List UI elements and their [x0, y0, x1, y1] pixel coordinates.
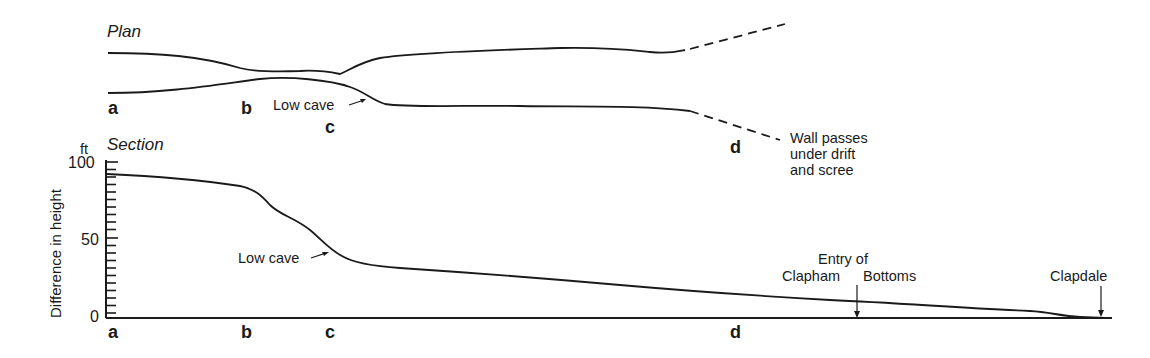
section-point-c: c [325, 322, 335, 342]
section-point-b: b [241, 322, 252, 342]
clapdale-arrowhead [1098, 310, 1104, 317]
section-profile-line [107, 174, 1105, 318]
plan-point-a: a [108, 98, 119, 118]
plan-lower-wall-dashed [690, 111, 780, 140]
entry-label-bottoms: Bottoms [863, 268, 916, 284]
ytick-50: 50 [81, 231, 99, 248]
ytick-0: 0 [90, 308, 99, 325]
section-point-a: a [108, 322, 119, 342]
wall-note-line1: Wall passes [790, 130, 868, 146]
section-low-cave-arrowhead [322, 252, 329, 256]
entry-arrowhead [854, 311, 860, 318]
plan-upper-wall-dashed [690, 24, 785, 49]
plan-point-b: b [241, 98, 252, 118]
plan-lower-wall [108, 78, 690, 111]
ytick-100: 100 [68, 154, 95, 171]
wall-note-line2: under drift [790, 146, 855, 162]
plan-upper-wall [108, 48, 685, 74]
y-axis-ticks [106, 162, 118, 313]
y-axis-title: Difference in height [47, 188, 64, 318]
plan-point-c: c [325, 117, 335, 137]
entry-label-line1: Entry of [818, 251, 869, 267]
clapdale-label: Clapdale [1050, 268, 1107, 284]
section-point-d: d [730, 322, 741, 342]
wall-note-line3: and scree [790, 162, 854, 178]
plan-title: Plan [107, 22, 141, 41]
diagram-canvas: Plan a b c d Low cave Wall passes under … [0, 0, 1150, 358]
section-low-cave-label: Low cave [238, 250, 299, 266]
section-title: Section [107, 135, 164, 154]
plan-point-d: d [730, 137, 741, 157]
entry-label-clapham: Clapham [782, 268, 840, 284]
plan-low-cave-label: Low cave [273, 97, 334, 113]
